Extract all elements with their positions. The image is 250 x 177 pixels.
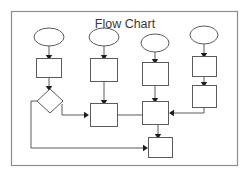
node-c3-end-rect[interactable] [149,138,173,158]
node-c2-start-ellipse[interactable] [89,28,119,46]
edge-c1-decision-to-c2-process2 [62,104,84,115]
arrow-head-left [169,110,174,116]
node-c3-process1-rect[interactable] [143,63,169,86]
node-c2-process1-rect[interactable] [91,59,118,82]
node-c4-process1-rect[interactable] [193,57,217,77]
node-c2-process2-rect[interactable] [91,104,118,127]
node-c1-decision-diamond[interactable] [37,89,63,113]
flowchart-container: Flow Chart [0,0,250,177]
node-c4-process2-rect[interactable] [193,86,217,108]
edge-c4-process2-to-c3-junction [174,108,204,113]
node-c3-junction-rect[interactable] [143,102,169,125]
node-c4-start-ellipse[interactable] [190,26,218,44]
flowchart-canvas: Flow Chart [0,0,250,177]
node-c1-start-ellipse[interactable] [34,28,64,46]
node-c1-process1-rect[interactable] [37,59,62,78]
arrow-head-right [84,112,89,118]
node-c3-start-ellipse[interactable] [141,34,169,52]
node-layer [34,26,218,158]
arrow-head-right [143,145,148,151]
